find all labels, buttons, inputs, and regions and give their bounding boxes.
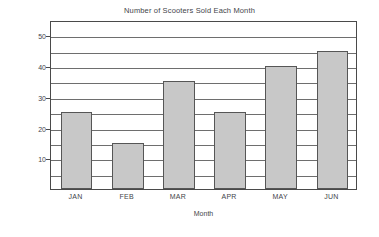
x-tick-label-jan: JAN: [69, 193, 83, 200]
chart-title: Number of Scooters Sold Each Month: [0, 6, 379, 15]
y-tick-mark: [46, 129, 50, 130]
y-tick-label: 40: [24, 64, 46, 71]
y-tick-label: 10: [24, 156, 46, 163]
plot-area: [50, 21, 357, 190]
gridline: [51, 176, 356, 177]
x-tick-label-mar: MAR: [170, 193, 186, 200]
gridline: [51, 83, 356, 84]
y-axis-tick-labels: 1020304050: [22, 21, 46, 190]
gridline: [51, 37, 356, 38]
x-axis-tick-labels: JANFEBMARAPRMAYJUN: [50, 193, 357, 205]
bar-feb: [112, 143, 144, 189]
gridline: [51, 160, 356, 161]
y-tick-label: 50: [24, 33, 46, 40]
gridline: [51, 53, 356, 54]
y-tick-mark: [46, 36, 50, 37]
bar-mar: [163, 81, 195, 189]
x-axis-title: Month: [50, 210, 357, 217]
x-tick-label-may: MAY: [272, 193, 288, 200]
y-tick-mark: [46, 159, 50, 160]
y-tick-label: 20: [24, 125, 46, 132]
gridline: [51, 145, 356, 146]
x-tick-label-jun: JUN: [324, 193, 339, 200]
bar-jan: [61, 112, 93, 189]
gridline: [51, 68, 356, 69]
bar-jun: [317, 51, 349, 189]
gridline: [51, 130, 356, 131]
x-tick-label-apr: APR: [221, 193, 236, 200]
y-tick-mark: [46, 98, 50, 99]
gridline: [51, 114, 356, 115]
bar-may: [265, 66, 297, 189]
bar-chart-figure: Number of Scooters Sold Each Month Numbe…: [0, 0, 379, 237]
y-tick-label: 30: [24, 94, 46, 101]
bar-apr: [214, 112, 246, 189]
gridline: [51, 99, 356, 100]
y-tick-mark: [46, 67, 50, 68]
x-tick-label-feb: FEB: [119, 193, 134, 200]
